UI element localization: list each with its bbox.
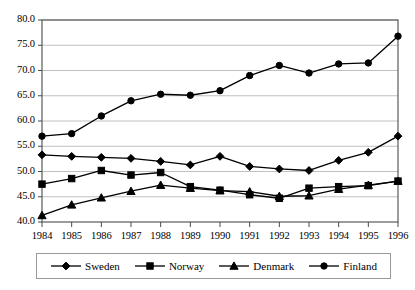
series-norway	[39, 167, 401, 201]
series-finland	[39, 33, 401, 139]
data-point-diamond-marker	[68, 152, 76, 160]
legend-label: Sweden	[85, 260, 120, 272]
data-point-circle-marker	[128, 98, 134, 104]
data-point-diamond-marker	[216, 152, 224, 160]
data-point-diamond-marker	[62, 262, 70, 270]
legend-label: Norway	[169, 260, 204, 272]
data-point-circle-marker	[39, 133, 45, 139]
legend-item-denmark: Denmark	[218, 260, 294, 272]
data-point-diamond-marker	[394, 132, 402, 140]
data-point-circle-marker	[276, 62, 282, 68]
legend-item-finland: Finland	[308, 260, 377, 272]
line-chart: 40.045.050.055.060.065.070.075.080.0 198…	[0, 0, 415, 290]
legend-marker-circle-icon	[308, 260, 340, 272]
data-point-diamond-marker	[246, 163, 254, 171]
x-axis-tick-label: 1994	[324, 230, 354, 241]
x-axis-tick-label: 1987	[116, 230, 146, 241]
y-axis-tick-label: 65.0	[0, 89, 35, 100]
y-axis-tick-label: 45.0	[0, 190, 35, 201]
legend-marker-square-icon	[134, 260, 166, 272]
y-axis-tick-label: 70.0	[0, 64, 35, 75]
plot-area	[0, 0, 415, 290]
x-axis-tick-label: 1988	[146, 230, 176, 241]
data-point-diamond-marker	[186, 161, 194, 169]
x-axis-tick-label: 1993	[294, 230, 324, 241]
legend-item-norway: Norway	[134, 260, 204, 272]
data-point-square-marker	[128, 172, 134, 178]
data-point-circle-marker	[306, 70, 312, 76]
x-axis-tick-label: 1984	[27, 230, 57, 241]
x-axis-tick-label: 1992	[264, 230, 294, 241]
y-axis-tick-label: 75.0	[0, 38, 35, 49]
data-point-square-marker	[147, 263, 153, 269]
data-point-diamond-marker	[157, 158, 165, 166]
data-point-diamond-marker	[97, 153, 105, 161]
data-point-circle-marker	[321, 263, 327, 269]
x-axis-tick-label: 1991	[235, 230, 265, 241]
legend-marker-triangle-icon	[218, 260, 250, 272]
data-point-circle-marker	[395, 33, 401, 39]
data-point-circle-marker	[335, 61, 341, 67]
data-point-diamond-marker	[335, 156, 343, 164]
x-axis-tick-label: 1986	[86, 230, 116, 241]
gridlines	[42, 20, 398, 197]
y-axis-tick-label: 55.0	[0, 139, 35, 150]
legend-marker-diamond-icon	[50, 260, 82, 272]
data-point-diamond-marker	[364, 148, 372, 156]
series-denmark	[38, 177, 402, 219]
y-axis-tick-label: 60.0	[0, 114, 35, 125]
data-point-circle-marker	[68, 130, 74, 136]
legend-label: Denmark	[253, 260, 294, 272]
legend-label: Finland	[343, 260, 377, 272]
x-axis-tick-label: 1985	[57, 230, 87, 241]
data-point-square-marker	[98, 167, 104, 173]
y-axis-tick-label: 40.0	[0, 215, 35, 226]
data-point-diamond-marker	[38, 151, 46, 159]
data-point-square-marker	[306, 185, 312, 191]
data-point-circle-marker	[98, 113, 104, 119]
x-axis-tick-label: 1995	[353, 230, 383, 241]
data-point-circle-marker	[157, 91, 163, 97]
x-axis-ticks	[42, 222, 398, 227]
data-point-circle-marker	[365, 60, 371, 66]
x-axis-tick-label: 1996	[383, 230, 413, 241]
data-point-circle-marker	[246, 72, 252, 78]
data-point-diamond-marker	[127, 154, 135, 162]
data-point-square-marker	[68, 175, 74, 181]
legend-item-sweden: Sweden	[50, 260, 120, 272]
y-axis-tick-label: 50.0	[0, 165, 35, 176]
data-point-circle-marker	[217, 88, 223, 94]
series-sweden	[38, 132, 402, 174]
data-point-square-marker	[157, 169, 163, 175]
y-axis-tick-label: 80.0	[0, 13, 35, 24]
x-axis-tick-label: 1990	[205, 230, 235, 241]
data-point-square-marker	[39, 181, 45, 187]
chart-legend: SwedenNorwayDenmarkFinland	[36, 253, 391, 279]
x-axis-tick-label: 1989	[175, 230, 205, 241]
data-point-circle-marker	[187, 92, 193, 98]
data-point-triangle-marker	[157, 181, 165, 188]
data-point-diamond-marker	[305, 167, 313, 175]
